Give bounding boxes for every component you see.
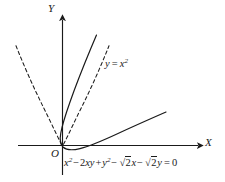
radicand-1: 2 [125, 156, 131, 168]
plot-canvas [0, 0, 225, 182]
label-exponent: 2 [124, 57, 128, 65]
curve-label-rotated-parabola: x2 − 2xy + y2 − √2x − √2y = 0 [64, 158, 177, 169]
eq-term4-radical: √2 [118, 158, 131, 169]
math-figure: Y X O y = x2 x2 − 2xy + y2 − √2x − √2y =… [0, 0, 225, 182]
axis-label-y: Y [48, 3, 54, 14]
eq-term2-variables: xy [85, 157, 94, 168]
axis-label-x: X [205, 137, 212, 148]
eq-term5-radical: √2 [144, 158, 157, 169]
curve-rotated-parabola [60, 35, 166, 150]
eq-rhs: 0 [172, 157, 177, 168]
radical-sign-2: √ [145, 157, 151, 168]
radicand-2: 2 [151, 156, 157, 168]
curve-label-standard-parabola: y = x2 [105, 59, 128, 70]
origin-label: O [51, 148, 59, 159]
